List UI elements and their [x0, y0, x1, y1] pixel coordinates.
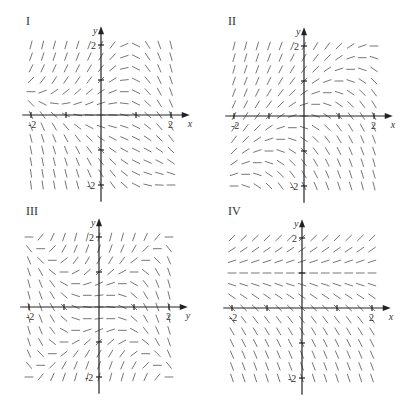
slope-segment	[109, 78, 116, 82]
slope-segment	[253, 328, 257, 335]
slope-segment	[313, 148, 318, 154]
slope-segment	[41, 65, 44, 72]
slope-segment	[254, 173, 262, 176]
slope-segment	[88, 170, 91, 177]
slope-segment	[333, 283, 341, 286]
slope-segment	[76, 158, 79, 165]
slope-segment	[263, 260, 271, 263]
slope-segment	[76, 147, 80, 154]
slope-segment	[86, 245, 89, 253]
slope-segment	[289, 102, 296, 107]
slope-segment	[358, 317, 363, 323]
slope-segment	[359, 68, 367, 71]
slope-segment	[110, 170, 115, 176]
slope-segment	[120, 257, 125, 263]
slope-segment	[73, 351, 78, 357]
slope-segment	[370, 351, 373, 358]
slope-segment	[335, 91, 343, 94]
slope-segment	[347, 363, 350, 371]
slope-segment	[290, 66, 294, 73]
slope-segment	[131, 282, 138, 286]
slope-segment	[256, 89, 260, 96]
slope-segment	[287, 294, 294, 299]
slope-segment	[74, 102, 82, 105]
slope-segment	[253, 235, 259, 241]
slope-segment	[268, 54, 271, 62]
slope-segment	[233, 77, 236, 85]
slope-segment	[312, 351, 315, 358]
slope-segment	[277, 374, 280, 382]
slope-segment	[38, 258, 44, 264]
slope-segment	[167, 246, 172, 252]
slope-segment	[39, 90, 47, 93]
slope-segment	[73, 257, 78, 263]
slope-segment	[131, 316, 137, 321]
slope-segment	[347, 56, 355, 59]
slope-segment	[324, 363, 327, 371]
slope-segment	[119, 270, 126, 274]
slope-segment	[121, 373, 123, 381]
slope-segment	[132, 183, 139, 187]
slope-segment	[336, 55, 343, 60]
slope-segment	[347, 80, 355, 83]
slope-segment	[72, 294, 80, 297]
slope-segment	[277, 351, 280, 358]
slope-segment	[370, 328, 374, 335]
slope-segment	[233, 54, 235, 62]
slope-segment	[145, 65, 150, 71]
slope-segment	[72, 317, 80, 320]
slope-segment	[145, 77, 150, 83]
slope-segment	[131, 351, 137, 356]
slope-segment	[244, 101, 248, 108]
slope-segment	[290, 171, 295, 177]
slope-segment	[323, 235, 329, 241]
slope-segment	[311, 235, 317, 241]
slope-segment	[53, 41, 55, 49]
slope-segment	[144, 373, 147, 380]
slope-segment	[110, 66, 116, 71]
slope-segment	[252, 247, 259, 252]
slope-segment	[75, 77, 80, 84]
x-axis-label: x	[388, 311, 394, 322]
y-tick-label-min: -2	[87, 180, 95, 191]
slope-segment	[61, 328, 68, 332]
slope-segment	[323, 328, 327, 335]
slope-segment	[242, 351, 245, 358]
slope-segment	[144, 136, 151, 141]
slope-segment	[65, 146, 68, 153]
slope-segment	[88, 53, 91, 60]
slope-segment	[121, 148, 128, 152]
slope-segment	[240, 247, 247, 252]
slope-segment	[167, 350, 170, 357]
slope-segment	[371, 374, 374, 382]
slope-segment	[357, 283, 365, 286]
slope-segment	[255, 125, 261, 131]
slope-segment	[132, 137, 139, 141]
slope-segment	[266, 363, 269, 371]
slope-segment	[109, 137, 116, 141]
slope-segment	[144, 233, 147, 240]
slope-segment	[121, 182, 127, 187]
slope-segment	[345, 260, 353, 263]
slope-segment	[314, 171, 318, 178]
slope-segment	[289, 149, 296, 153]
slope-segment	[42, 146, 44, 154]
slope-segment	[53, 158, 55, 166]
slope-segment	[29, 65, 33, 72]
slope-segment	[77, 181, 79, 189]
slope-segment	[326, 171, 329, 178]
slope-segment	[110, 54, 116, 60]
slope-segment	[254, 150, 262, 153]
slope-segment	[229, 247, 236, 252]
slope-segment	[254, 374, 257, 382]
y-tick-label-max: 2	[91, 40, 96, 51]
slope-segment	[30, 158, 31, 166]
slope-segment	[85, 257, 89, 264]
slope-segment	[324, 374, 327, 382]
slope-segment	[38, 234, 43, 240]
slope-segment	[310, 247, 317, 252]
slope-segment	[76, 170, 79, 178]
slope-segment	[121, 171, 127, 176]
slope-segment	[350, 182, 352, 190]
slope-segment	[346, 317, 351, 323]
